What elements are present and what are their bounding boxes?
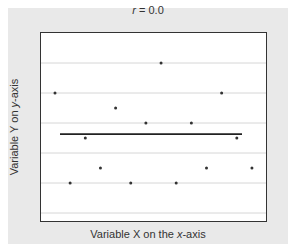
- x-axis-label: Variable X on the x-axis: [0, 228, 296, 240]
- data-point: [69, 182, 72, 185]
- data-point: [235, 137, 238, 140]
- data-point: [160, 62, 163, 65]
- data-point: [84, 137, 87, 140]
- data-point: [144, 122, 147, 125]
- data-point: [99, 167, 102, 170]
- y-axis-label-pre: Variable Y on: [8, 107, 20, 175]
- data-point: [205, 167, 208, 170]
- scatter-plot: [0, 0, 296, 252]
- data-point: [190, 122, 193, 125]
- y-axis-label: Variable Y on y-axis: [8, 79, 20, 176]
- x-axis-label-post: -axis: [182, 228, 205, 240]
- x-axis-label-pre: Variable X on the: [90, 228, 177, 240]
- data-point: [175, 182, 178, 185]
- data-point: [220, 92, 223, 95]
- y-axis-label-post: -axis: [8, 79, 20, 102]
- data-point: [114, 107, 117, 110]
- data-point: [129, 182, 132, 185]
- data-point: [54, 92, 57, 95]
- data-point: [250, 167, 253, 170]
- y-axis-label-var: y: [8, 102, 20, 108]
